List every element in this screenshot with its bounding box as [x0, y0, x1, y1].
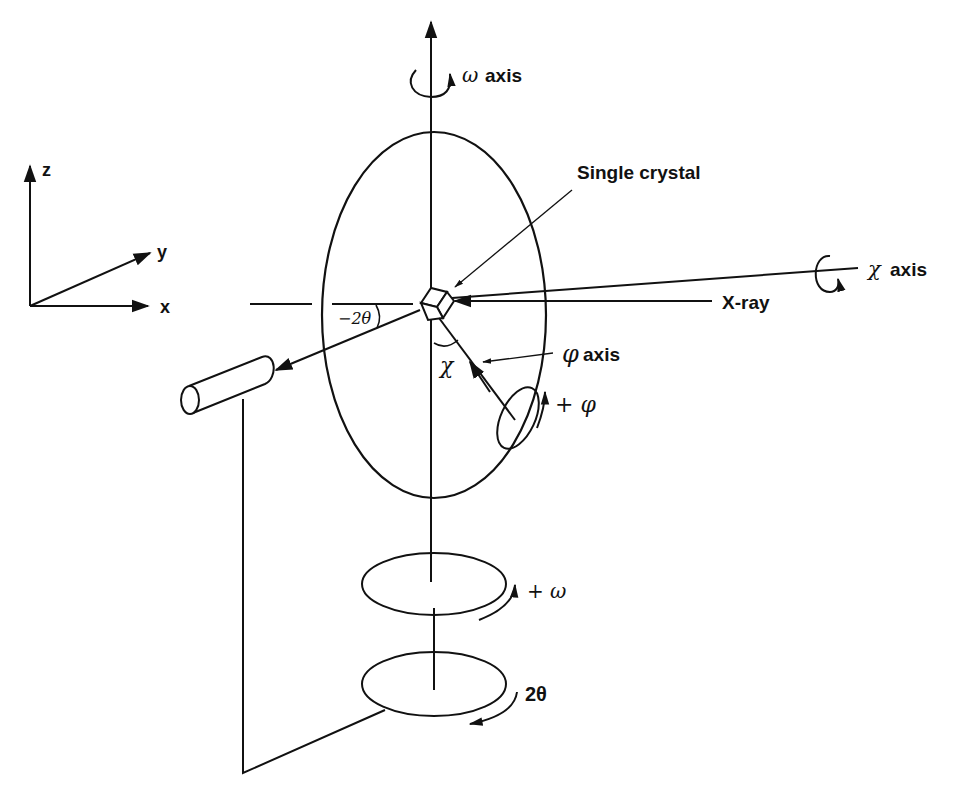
omega-axis-symbol: ω: [462, 63, 478, 87]
chi-angle-arc: [434, 340, 458, 346]
detector-arm: [243, 399, 385, 773]
plus-omega-label: + ω: [527, 579, 566, 603]
plus-phi-label: + φ: [555, 392, 596, 417]
coordinate-system: z y x: [30, 160, 170, 317]
two-theta-angle-arc: [376, 305, 380, 328]
phi-axis-symbol: φ: [562, 340, 579, 368]
chi-rotation-arrow-icon: [816, 256, 839, 292]
chi-axis-label: axis: [890, 259, 927, 280]
phi-circle: [489, 381, 548, 455]
z-label: z: [42, 160, 51, 180]
y-label: y: [157, 242, 167, 262]
two-theta-label: 2θ: [525, 683, 547, 705]
chi-axis-line: [452, 268, 858, 298]
omega-circle: [362, 553, 506, 615]
y-axis-arrow: [30, 253, 150, 306]
x-label: x: [160, 297, 170, 317]
single-crystal-pointer: [455, 190, 572, 287]
minus-two-theta-label: −2θ: [338, 309, 372, 328]
chi-axis-symbol: χ: [866, 257, 882, 281]
phi-axis-label: axis: [583, 344, 620, 365]
detector-icon: [181, 356, 274, 414]
phi-axis-arrow: [470, 362, 490, 392]
diffractometer-diagram: z y x ω axis X-ray χ axis Single crystal…: [0, 0, 954, 802]
single-crystal-label: Single crystal: [577, 162, 701, 183]
chi-angle-label: χ: [438, 353, 455, 378]
single-crystal-cube: [421, 288, 454, 320]
omega-axis-label: axis: [485, 65, 522, 86]
two-theta-arrow-icon: [470, 692, 517, 724]
xray-label: X-ray: [722, 292, 770, 313]
plus-omega-arrow-icon: [479, 585, 515, 620]
